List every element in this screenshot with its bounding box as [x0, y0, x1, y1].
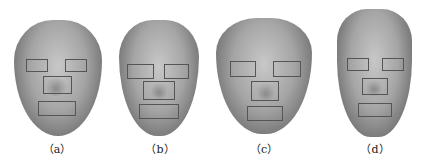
caption-a: （a） [27, 140, 87, 156]
caption-b: （b） [130, 140, 190, 156]
caption-d: （d） [345, 140, 405, 156]
left-eye-box [347, 58, 369, 71]
right-eye-box [273, 61, 301, 77]
mouth-box [38, 101, 76, 116]
nose-box [143, 81, 175, 100]
nose-box [251, 81, 279, 101]
caption-c: （c） [234, 140, 294, 156]
panel-b: （b） [110, 0, 215, 161]
mouth-box [247, 106, 283, 121]
face-render-d [337, 9, 412, 137]
right-eye-box [164, 64, 189, 79]
mouth-box [139, 104, 179, 119]
right-eye-box [382, 58, 404, 71]
mouth-box [358, 103, 392, 117]
left-eye-box [230, 61, 256, 77]
nose-box [43, 76, 72, 94]
panel-c: （c） [210, 0, 320, 161]
left-eye-box [127, 64, 154, 79]
panel-d: （d） [315, 0, 425, 161]
right-eye-box [65, 59, 87, 72]
panel-a: （a） [0, 0, 110, 161]
nose-box [362, 78, 388, 95]
left-eye-box [26, 59, 48, 72]
